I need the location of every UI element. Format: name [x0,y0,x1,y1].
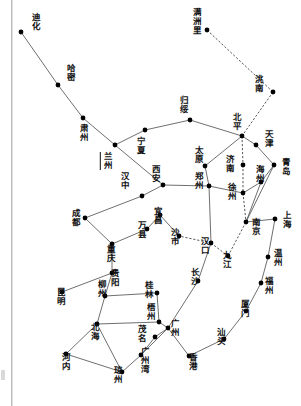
city-label-suzhou: 肃州 [78,124,87,142]
city-label-wuzhou: 梧州 [145,303,154,321]
rail-link-dihua-to-hami [21,32,58,85]
city-label-fuzhou: 福州 [263,277,272,295]
rail-link-hanzhong-to-chengdu [85,196,142,218]
rail-link-manzhouli-to-taonan [207,30,273,92]
city-label-beihai: 北海 [89,323,98,341]
city-label-hankou: 汉口 [199,237,208,255]
rail-link-hami-to-suzhou [58,85,83,118]
city-label-maoming: 茂名 [136,325,145,343]
city-node-taiyuan [203,164,208,169]
city-label-haizhou: 海州 [254,165,263,183]
rail-link-zhengzhou-to-taiyuan [205,166,209,186]
rail-link-xuzhou-to-haizhou [243,182,261,193]
city-label-guilin: 桂林 [143,281,152,299]
rail-link-xuzhou-to-nanjing [243,193,246,222]
rail-link-chengdu-to-chongqing [85,218,112,244]
city-label-xuzhou: 徐州 [226,183,235,201]
city-label-yichang: 宜昌 [152,207,161,225]
city-node-xian [161,183,166,188]
city-node-qingdao [272,163,277,168]
city-label-qingdao: 青岛 [280,158,289,176]
city-label-hanoi: 河内 [60,353,69,371]
city-label-guisui: 归绥 [178,96,187,114]
city-node-hankou [209,241,214,246]
city-node-lanzhou [113,143,118,148]
city-label-qiongzhou: 琼州 [112,366,121,384]
city-label-jiujiang: 九江 [221,251,230,269]
city-label-kunming: 昆明 [55,288,64,306]
city-node-tianjin [254,143,259,148]
rail-link-beiping-to-tianjin [242,136,256,145]
city-label-xiamen: 厦门 [239,300,248,318]
city-label-manzhouli: 满洲里 [191,8,200,35]
rail-link-beiping-to-jinan [242,136,243,165]
city-label-liuzhou: 柳州 [96,280,105,298]
city-label-guangzhouwan: 广州湾 [139,347,148,374]
city-label-shanghai: 上海 [281,211,290,229]
city-label-ningxia: 宁夏 [135,137,144,155]
rail-link-zhengzhou-to-hankou [209,186,211,243]
city-node-beiping [240,134,245,139]
rail-link-xian-to-hanzhong [142,185,163,196]
city-label-jinan: 济南 [224,155,233,173]
city-label-hongkong: 香港 [187,353,196,371]
city-label-shashi: 沙市 [169,228,178,246]
city-node-suzhou [81,116,86,121]
city-node-zhengzhou [207,184,212,189]
rail-link-liuzhou-to-beihai [97,296,105,324]
city-label-chongqing: 重庆 [105,245,114,263]
city-label-wanxian: 万县 [136,221,145,239]
city-label-nanjing: 南京 [250,218,259,236]
city-node-dihua [19,30,24,35]
network-lines-layer [0,0,301,406]
city-node-hanzhong [140,194,145,199]
city-node-maoming [153,335,158,340]
city-node-guisui [188,118,193,123]
city-node-shanghai [273,217,278,222]
city-label-hami: 哈密 [65,64,74,82]
city-label-hanzhong: 汉中 [119,172,128,190]
city-label-shantou: 汕头 [215,328,224,346]
city-label-guiyang: 贵阳 [109,269,118,287]
city-node-manzhouli [205,28,210,33]
city-node-ningxia [143,128,148,133]
rail-link-guilin-to-wuzhou [157,293,159,322]
city-label-xian: 西安 [150,165,159,183]
city-label-zhengzhou: 郑州 [193,172,202,190]
city-label-changsha: 长沙 [189,268,198,286]
city-label-taiyuan: 太原 [193,146,202,164]
rail-link-beihai-to-wuzhou [97,322,159,324]
city-node-taonan [271,90,276,95]
rail-link-ningxia-to-guisui [145,120,190,130]
city-label-chengdu: 成都 [70,209,79,227]
city-label-tianjin: 天津 [263,130,272,148]
city-label-taonan: 洮南 [253,75,262,93]
city-label-guangzhou: 广州 [169,319,178,337]
city-node-wuzhou [157,320,162,325]
city-node-guilin [155,291,160,296]
city-node-hami [56,83,61,88]
railway-network-map: 迪化哈密肃州兰州宁夏归绥满洲里洮南北平天津太原青岛济南海州徐州郑州西安汉中成都万… [0,0,301,406]
rail-link-tianjin-to-qingdao [256,145,274,165]
city-node-jinan [241,163,246,168]
city-node-xuzhou [241,191,246,196]
city-label-lanzhou: 兰州 [102,152,111,170]
city-node-chengdu [83,216,88,221]
city-label-wenzhou: 温州 [272,249,281,267]
city-node-nanjing [244,220,249,225]
rail-link-haizhou-to-nanjing [246,182,261,222]
city-label-dihua: 迪化 [30,13,39,31]
city-node-wenzhou [266,255,271,260]
city-label-beiping: 北平 [231,113,240,131]
